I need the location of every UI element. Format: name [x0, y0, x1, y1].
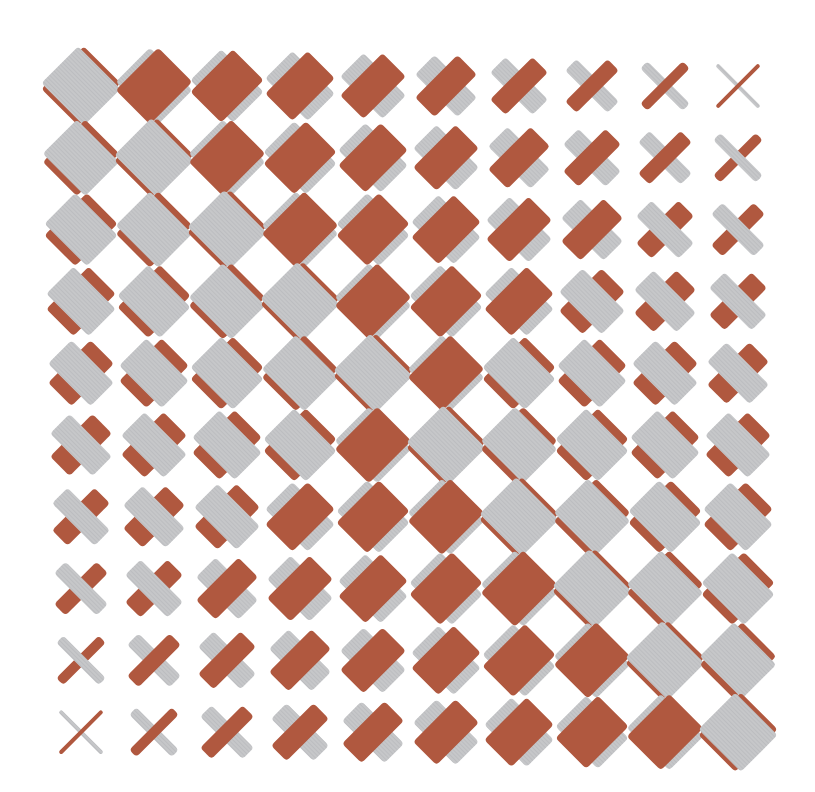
gray-bar	[628, 480, 701, 553]
pattern-cell	[554, 622, 630, 698]
rust-bar	[338, 554, 408, 624]
pattern-cell	[555, 408, 628, 481]
gray-bar	[634, 270, 696, 332]
pattern-cell	[563, 129, 621, 187]
rust-bar	[196, 558, 258, 620]
rust-bar	[189, 120, 265, 196]
pattern-cell	[700, 622, 776, 698]
pattern-cell	[555, 696, 628, 769]
rust-bar	[336, 480, 409, 553]
pattern-cell	[114, 118, 193, 197]
rust-bar	[481, 550, 557, 626]
rust-bar	[413, 699, 479, 765]
rust-bar	[336, 193, 409, 266]
pattern-cell	[200, 705, 254, 759]
pattern-cell	[479, 477, 558, 556]
pattern-cell	[271, 703, 329, 761]
pattern-cell	[488, 127, 550, 189]
pattern-cell	[413, 699, 479, 765]
pattern-cell	[561, 199, 623, 261]
pattern-cell	[342, 701, 404, 763]
pattern-cell	[260, 262, 339, 341]
woven-pattern-artwork	[0, 0, 815, 792]
gray-bar	[192, 410, 262, 480]
rust-bar	[488, 127, 550, 189]
gray-bar	[632, 340, 698, 406]
rust-bar	[484, 697, 554, 767]
rust-bar	[415, 55, 477, 117]
pattern-cell	[189, 120, 265, 196]
rust-bar	[190, 49, 263, 122]
rust-bar	[411, 195, 481, 265]
pattern-cell	[41, 46, 120, 125]
pattern-cell	[490, 57, 548, 115]
pattern-cell	[628, 480, 701, 553]
pattern-cell	[559, 268, 625, 334]
gray-bar	[116, 191, 192, 267]
gray-bar	[187, 190, 266, 269]
pattern-cell	[630, 410, 700, 480]
pattern-cell	[698, 693, 777, 772]
gray-bar	[630, 410, 700, 480]
gray-bar	[119, 338, 189, 408]
pattern-cell	[632, 340, 698, 406]
pattern-cell	[116, 191, 192, 267]
pattern-cell	[408, 479, 484, 555]
rust-bar	[335, 263, 411, 339]
rust-bar	[340, 53, 406, 119]
pattern-cell	[263, 408, 336, 481]
pattern-cell	[123, 486, 185, 548]
pattern-cell	[198, 631, 256, 689]
pattern-cell	[634, 270, 696, 332]
pattern-cell	[636, 201, 694, 259]
gray-bar	[260, 262, 339, 341]
pattern-cell	[482, 624, 555, 697]
pattern-cell	[486, 197, 552, 263]
gray-bar	[627, 550, 703, 626]
pattern-cell	[484, 697, 554, 767]
pattern-cell	[43, 120, 119, 196]
rust-bar	[263, 121, 336, 194]
pattern-cell	[701, 552, 774, 625]
rust-bar	[408, 479, 484, 555]
gray-bar	[698, 693, 777, 772]
rust-bar	[265, 51, 335, 121]
pattern-cell	[54, 562, 108, 616]
gray-bar	[189, 263, 265, 339]
gray-bar	[701, 552, 774, 625]
gray-bar	[43, 120, 119, 196]
pattern-cell	[625, 621, 704, 700]
gray-bar	[117, 265, 190, 338]
pattern-cell	[713, 133, 763, 183]
gray-bar	[482, 337, 555, 410]
pattern-cell	[336, 193, 409, 266]
gray-bar	[50, 414, 112, 476]
pattern-cell	[627, 694, 703, 770]
pattern-cell	[187, 190, 266, 269]
pattern-cell	[638, 131, 692, 185]
pattern-cell	[52, 488, 110, 546]
rust-bar	[409, 552, 482, 625]
rust-bar	[409, 265, 482, 338]
gray-bar	[700, 622, 776, 698]
pattern-cell	[192, 410, 262, 480]
rust-bar	[486, 197, 552, 263]
pattern-cell	[627, 550, 703, 626]
pattern-cell	[194, 484, 260, 550]
pattern-cell	[262, 335, 338, 411]
pattern-cell	[117, 265, 190, 338]
pattern-cell	[707, 342, 769, 404]
pattern-cell	[415, 55, 477, 117]
rust-bar	[338, 123, 408, 193]
pattern-cell	[263, 121, 336, 194]
rust-bar	[554, 622, 630, 698]
rust-bar	[267, 556, 333, 622]
gray-bar	[44, 193, 117, 266]
gray-bar	[557, 338, 627, 408]
rust-bar	[482, 624, 555, 697]
rust-bar	[340, 627, 406, 693]
pattern-cell	[709, 272, 767, 330]
pattern-cell	[715, 63, 760, 108]
pattern-cell	[119, 338, 189, 408]
gray-bar	[46, 267, 116, 337]
